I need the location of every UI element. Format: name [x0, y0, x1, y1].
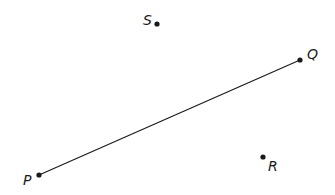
point-p-label: P: [23, 172, 32, 188]
point-q: Q: [297, 46, 318, 63]
point-s-dot: [154, 21, 159, 26]
point-r-label: R: [268, 158, 278, 174]
point-q-dot: [297, 57, 302, 62]
point-r-dot: [260, 154, 265, 159]
geometry-diagram: S Q P R: [0, 0, 335, 195]
point-s: S: [143, 12, 160, 28]
point-p: P: [23, 172, 42, 188]
point-p-dot: [36, 172, 41, 177]
point-q-label: Q: [307, 46, 318, 62]
point-r: R: [260, 154, 277, 174]
point-s-label: S: [143, 12, 152, 28]
